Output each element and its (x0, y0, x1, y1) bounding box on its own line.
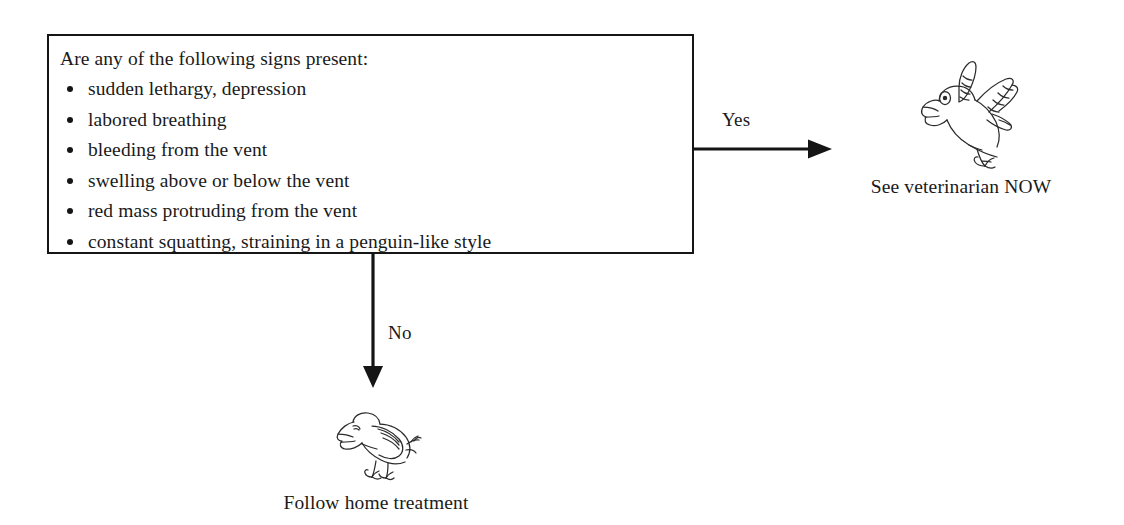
outcome-see-veterinarian: See veterinarian NOW (826, 54, 1096, 198)
connector-no (360, 252, 388, 392)
connector-yes (690, 136, 836, 162)
list-item: sudden lethargy, depression (60, 74, 491, 105)
list-item: red mass protruding from the vent (60, 196, 491, 227)
sign-label: bleeding from the vent (88, 139, 267, 160)
bullet-icon (67, 86, 73, 92)
decision-box: Are any of the following signs present: … (47, 34, 694, 254)
sign-label: swelling above or below the vent (88, 170, 350, 191)
bullet-icon (67, 239, 73, 245)
outcome-caption: Follow home treatment (241, 492, 511, 514)
resting-bird-icon (326, 404, 426, 486)
list-item: bleeding from the vent (60, 135, 491, 166)
outcome-follow-home-treatment: Follow home treatment (241, 404, 511, 514)
sign-label: labored breathing (88, 109, 227, 130)
alarmed-bird-icon (899, 54, 1023, 170)
bullet-icon (67, 147, 73, 153)
list-item: labored breathing (60, 105, 491, 136)
decision-prompt: Are any of the following signs present: (60, 44, 368, 74)
edge-label-yes: Yes (722, 109, 750, 131)
sign-list: sudden lethargy, depression labored brea… (60, 74, 491, 257)
bullet-icon (67, 178, 73, 184)
outcome-caption: See veterinarian NOW (826, 176, 1096, 198)
edge-label-no: No (388, 322, 412, 344)
sign-label: red mass protruding from the vent (88, 200, 357, 221)
sign-label: sudden lethargy, depression (88, 78, 306, 99)
bullet-icon (67, 208, 73, 214)
list-item: constant squatting, straining in a pengu… (60, 227, 491, 258)
bullet-icon (67, 117, 73, 123)
diagram-canvas: Are any of the following signs present: … (0, 0, 1124, 525)
sign-label: constant squatting, straining in a pengu… (88, 231, 491, 252)
list-item: swelling above or below the vent (60, 166, 491, 197)
